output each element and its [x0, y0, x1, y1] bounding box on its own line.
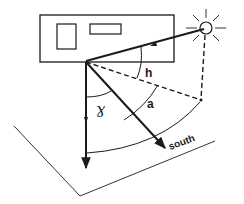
solar-angle-diagram: h a ɣ south [0, 0, 244, 204]
label-h: h [145, 66, 152, 80]
label-gamma: ɣ [96, 100, 105, 118]
sun-vertical-projection [201, 35, 205, 99]
gamma-arc [86, 91, 111, 97]
ground-plane [14, 15, 215, 196]
label-south: south [167, 132, 196, 152]
sun-icon [186, 9, 226, 41]
window-right [90, 24, 121, 34]
window-left [57, 24, 76, 49]
label-a: a [147, 97, 154, 111]
